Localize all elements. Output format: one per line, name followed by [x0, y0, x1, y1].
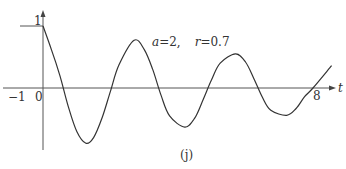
- param-r-value: =0.7: [200, 35, 229, 49]
- x-tick-minus-1: −1: [8, 91, 26, 103]
- x-tick-0: 0: [35, 91, 43, 103]
- t-axis-label: t: [338, 82, 343, 94]
- x-axis-arrow-icon: [329, 86, 336, 91]
- x-tick-8: 8: [313, 90, 321, 102]
- parameter-annotation: a=2,r=0.7: [152, 36, 230, 48]
- param-a-value: =2,: [159, 35, 181, 49]
- damped-oscillation-chart: [0, 0, 346, 169]
- figure-caption: (j): [180, 149, 193, 161]
- y-tick-1: 1: [34, 15, 42, 27]
